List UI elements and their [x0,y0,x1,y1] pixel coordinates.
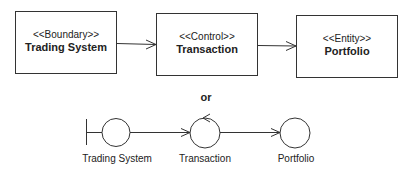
control-stereotype: <<Control>> [179,31,235,42]
control-icon [190,114,220,148]
boundary-stereotype: <<Boundary>> [33,29,99,40]
boundary-name: Trading System [25,41,107,53]
control-icon-label: Transaction [179,153,231,164]
or-separator: or [201,91,213,103]
entity-icon [280,118,310,148]
control-box-transaction: <<Control>> Transaction [157,14,258,76]
entity-box-portfolio: <<Entity>> Portfolio [297,16,398,78]
entity-icon-label: Portfolio [278,153,315,164]
edge-boundary-to-control [130,129,190,137]
arrow-trading-to-transaction [117,40,156,49]
control-name: Transaction [176,43,238,55]
arrow-transaction-to-portfolio [258,42,296,51]
edge-control-to-entity [220,129,280,137]
boundary-icon-label: Trading System [82,153,152,164]
boundary-box-trading-system: <<Boundary>> Trading System [16,12,117,74]
robustness-diagram: <<Boundary>> Trading System <<Control>> … [0,0,417,171]
entity-stereotype: <<Entity>> [323,33,372,44]
entity-name: Portfolio [324,45,369,57]
boundary-icon [87,119,131,147]
